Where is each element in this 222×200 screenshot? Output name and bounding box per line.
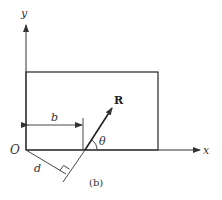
y-axis-label: y (20, 7, 28, 20)
x-axis-label: x (203, 144, 210, 157)
angle-label: θ (99, 135, 106, 148)
angle-arc (92, 140, 98, 150)
distance-d-label: d (34, 162, 41, 175)
figure-caption: (b) (89, 177, 103, 188)
right-angle-marker (60, 166, 70, 171)
origin-label: O (10, 143, 20, 157)
force-label: R (114, 94, 124, 107)
diagram: y x O R θ b d (b) (0, 0, 222, 200)
line-of-action-extension (63, 150, 85, 182)
distance-b-label: b (51, 111, 58, 124)
